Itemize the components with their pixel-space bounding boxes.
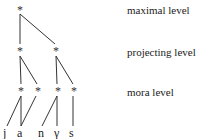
segment-n: n bbox=[38, 126, 44, 139]
edge-mora1-j bbox=[7, 96, 21, 126]
mora-node-3: * bbox=[55, 84, 61, 98]
edge-proj1-mora2 bbox=[20, 56, 37, 84]
mora-node-4: * bbox=[71, 84, 77, 98]
mora-node-1: * bbox=[18, 84, 24, 98]
projecting-node-2: * bbox=[53, 44, 59, 58]
edge-proj1-mora1 bbox=[20, 56, 21, 84]
segment-s: s bbox=[69, 126, 74, 139]
edge-proj2-mora3 bbox=[56, 56, 57, 84]
edge-proj2-mora4 bbox=[56, 56, 73, 84]
segment-j: j bbox=[2, 126, 6, 139]
projecting-node-1: * bbox=[17, 44, 23, 58]
label-maximal-level: maximal level bbox=[127, 4, 190, 16]
edge-mora2-a bbox=[21, 96, 36, 126]
metrical-tree-diagram: * * * * * * * j a n γ s maximal level pr… bbox=[0, 0, 202, 139]
edge-max-proj2 bbox=[20, 14, 55, 44]
label-mora-level: mora level bbox=[127, 86, 174, 98]
segment-gamma: γ bbox=[53, 126, 60, 139]
segment-a: a bbox=[17, 126, 23, 139]
label-projecting-level: projecting level bbox=[127, 46, 196, 58]
mora-node-2: * bbox=[35, 84, 41, 98]
edge-mora3-n bbox=[42, 96, 57, 126]
